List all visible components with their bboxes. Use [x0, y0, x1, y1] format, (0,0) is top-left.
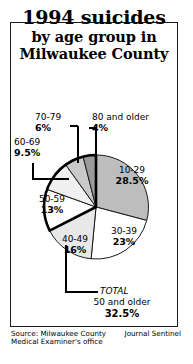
- source-note: Source: Milwaukee County Medical Examine…: [11, 330, 106, 346]
- label-80-and-older: 80 and older 4%: [92, 112, 162, 133]
- publication-credit: Journal Sentinel: [125, 330, 181, 338]
- label-50-59-group: 50-59: [30, 194, 74, 205]
- total-callout: TOTAL 50 and older 32.5%: [76, 286, 168, 319]
- label-30-39-pct: 23%: [101, 237, 147, 248]
- total-callout-line-2: 50 and older: [76, 297, 168, 308]
- label-60-69: 60-69 9.5%: [14, 137, 60, 158]
- label-70-79: 70-79 6%: [35, 112, 75, 133]
- infographic-root: 1994 suicides by age group in Milwaukee …: [0, 0, 193, 364]
- label-10-29-group: 10-29: [106, 165, 158, 176]
- label-60-69-pct: 9.5%: [14, 148, 60, 159]
- label-50-59-pct: 13%: [30, 205, 74, 216]
- label-70-79-pct: 6%: [35, 123, 75, 134]
- title-block: 1994 suicides by age group in Milwaukee …: [10, 6, 178, 62]
- label-80-and-older-pct: 4%: [92, 123, 162, 134]
- label-50-59: 50-59 13%: [30, 194, 74, 215]
- label-70-79-group: 70-79: [35, 112, 75, 123]
- label-10-29: 10-29 28.5%: [106, 165, 158, 186]
- label-40-49-group: 40-49: [52, 234, 98, 245]
- label-60-69-group: 60-69: [14, 137, 60, 148]
- total-callout-label: TOTAL: [76, 286, 168, 297]
- label-10-29-pct: 28.5%: [106, 176, 158, 187]
- subtitle-line-1: by age group in: [10, 28, 178, 45]
- page-title: 1994 suicides: [10, 6, 178, 28]
- source-line-2: Medical Examiner's office: [11, 337, 103, 346]
- label-30-39-group: 30-39: [101, 226, 147, 237]
- subtitle-line-2: Milwaukee County: [10, 45, 178, 62]
- label-30-39: 30-39 23%: [101, 226, 147, 247]
- label-40-49: 40-49 16%: [52, 234, 98, 255]
- label-40-49-pct: 16%: [52, 245, 98, 256]
- total-callout-value: 32.5%: [76, 308, 168, 319]
- label-80-and-older-group: 80 and older: [92, 112, 162, 123]
